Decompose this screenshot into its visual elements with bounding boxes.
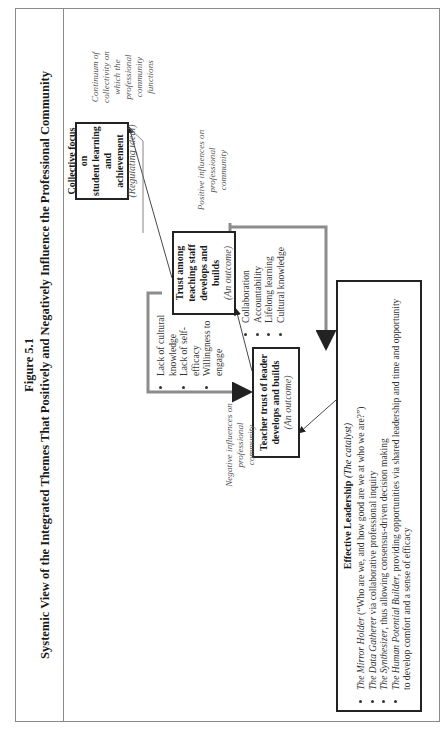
list-item: Lack of self-efficacy xyxy=(178,308,201,376)
note-line: which the xyxy=(112,37,123,117)
note-line: Continuum of xyxy=(90,37,101,117)
list-item: Accountability xyxy=(252,225,264,323)
node-line: teaching staff xyxy=(186,233,198,313)
list-item: Willingness to engage xyxy=(201,308,224,376)
arrow-leadership-to-leader-trust xyxy=(299,400,336,433)
node-subtitle: (An outcome) xyxy=(222,233,234,313)
role-desc: (“Who are we, and how good are we at who… xyxy=(355,407,366,618)
note-line: Positive influences on xyxy=(196,120,207,220)
node-trust-leader: Teacher trust of leader develops and bui… xyxy=(252,347,300,458)
list-item: Collaboration xyxy=(240,225,252,323)
node-trust-staff: Trust among teaching staff develops and … xyxy=(172,231,236,315)
leadership-title-text: Effective Leadership xyxy=(342,481,353,570)
positive-influences-list: Collaboration Accountability Lifelong le… xyxy=(240,225,286,335)
role-desc: via collaborative professional inquiry xyxy=(367,471,378,617)
leadership-title: Effective Leadership (The catalyst) xyxy=(342,290,353,702)
node-line: Collective focus on xyxy=(66,124,90,198)
note-line: professional xyxy=(123,37,134,117)
list-item: Lifelong learning xyxy=(263,225,275,323)
node-line: student learning and xyxy=(90,124,114,198)
continuum-annotation: Continuum of collectivity on which the p… xyxy=(90,37,156,117)
note-line: collectivity on xyxy=(101,37,112,117)
node-line: Trust among xyxy=(174,233,186,313)
role-desc: , thus allowing consensus-driven decisio… xyxy=(378,438,389,629)
positive-annotation: Positive influences on professional comm… xyxy=(196,120,229,220)
role-name: The Mirror Holder xyxy=(355,617,366,690)
role-name: The Human Potential Builder xyxy=(390,576,401,690)
node-subtitle: (Regulating ideal) xyxy=(126,124,138,198)
list-item: The Synthesizer, thus allowing consensus… xyxy=(378,290,390,690)
node-subtitle: (An outcome) xyxy=(282,349,294,456)
note-line: functions xyxy=(145,37,156,117)
node-line: develops and builds xyxy=(270,349,282,456)
node-line: develops and builds xyxy=(198,233,222,313)
leadership-title-sub: (The catalyst) xyxy=(342,423,353,478)
node-collective-focus: Collective focus on student learning and… xyxy=(75,122,129,200)
node-effective-leadership: Effective Leadership (The catalyst) The … xyxy=(336,280,422,712)
negative-influences-list: Lack of cultural knowledge Lack of self-… xyxy=(155,308,224,388)
role-name: The Data Gatherer xyxy=(367,617,378,690)
list-item: Cultural knowledge xyxy=(275,225,287,323)
list-item: The Data Gatherer via collaborative prof… xyxy=(367,290,379,690)
note-line: professional xyxy=(207,120,218,220)
list-item: The Human Potential Builder, providing o… xyxy=(390,290,413,690)
node-line: Teacher trust of leader xyxy=(258,349,270,456)
rotated-figure-page: Figure 5.1 Systemic View of the Integrat… xyxy=(0,0,445,733)
note-line: community xyxy=(218,120,229,220)
list-item: Lack of cultural knowledge xyxy=(155,308,178,376)
role-name: The Synthesizer xyxy=(378,630,389,691)
negative-annotation: Negative influences on professional comm… xyxy=(224,395,257,495)
note-line: professional xyxy=(235,395,246,495)
list-item: The Mirror Holder (“Who are we, and how … xyxy=(355,290,367,690)
leadership-roles-list: The Mirror Holder (“Who are we, and how … xyxy=(355,290,413,702)
note-line: Negative influences on xyxy=(224,395,235,495)
note-line: community xyxy=(246,395,257,495)
note-line: community xyxy=(134,37,145,117)
node-line: achievement xyxy=(114,124,126,198)
